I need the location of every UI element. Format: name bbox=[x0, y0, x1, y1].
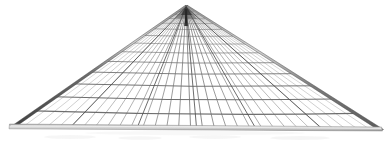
image-canvas: Perspective wireframe grid structure bbox=[0, 0, 388, 143]
wireframe-grid-scene: Perspective wireframe grid structure bbox=[0, 0, 388, 143]
